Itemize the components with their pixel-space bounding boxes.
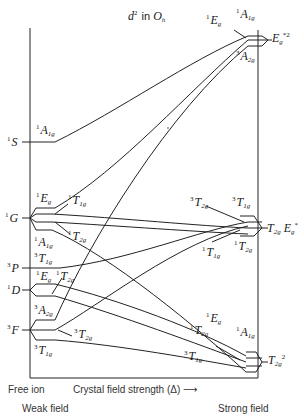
axis-caption: Crystal field strength (Δ) ⟶ [73, 384, 197, 395]
term-1D: 1D [7, 284, 20, 296]
sf-Eg2-3A2g: 3A2g [236, 50, 255, 64]
sf-T2g2-1Eg: 1Eg [206, 312, 221, 326]
sf-T2g2-1A1g: 1A1g [236, 326, 255, 340]
state-3T1g-from-3F: 3T1g [34, 344, 52, 358]
config-T2g2-label: T2g2 [268, 354, 286, 368]
state-1A1g-from-1G: 1A1g [34, 236, 53, 250]
state-3T2g-from-3F: 3T2g [74, 328, 92, 342]
state-1T2g-from-1G: 1T2g [68, 230, 86, 244]
state-1Eg-from-1D: 1Eg [36, 270, 51, 284]
sf-T2gEg-3T1g: 3T1g [232, 196, 250, 210]
state-1T1g-from-1G: 1T1g [68, 194, 86, 208]
term-3P: 3P [7, 262, 19, 274]
sf-T2gEg-1T2g: 1T2g [234, 240, 252, 254]
sf-Eg2-1A1g: 1A1g [236, 8, 255, 22]
config-T2gEg-label: T2g Eg* [267, 222, 299, 236]
config-Eg2-label: Eg*2 [272, 32, 291, 46]
sf-T2g2-1T2g: 1T2g [190, 324, 208, 338]
sf-T2gEg-3T2g: 3T2g [190, 196, 208, 210]
state-3A2g-from-3F: 3A2g [34, 304, 53, 318]
term-1G: 1G [5, 212, 18, 224]
sf-Eg2-1Eg: 1Eg [206, 14, 221, 28]
strong-field-caption: Strong field [218, 403, 269, 414]
state-1A1g-from-1S: 1A1g [36, 124, 55, 138]
term-1S: 1S [7, 136, 18, 148]
term-3F: 3F [7, 324, 19, 336]
state-3T1g-from-3P: 3T1g [34, 252, 52, 266]
sf-T2gEg-1T1g: 1T1g [202, 246, 220, 260]
weak-field-caption: Weak field [22, 403, 69, 414]
free-ion-caption: Free ion [8, 384, 45, 395]
sf-T2g2-3T1g: 3T1g [184, 350, 202, 364]
diagram-title: d2 in Oh [128, 10, 165, 24]
state-1Eg-from-1G: 1Eg [36, 192, 51, 206]
state-1T2g-from-1D: 1T2g [56, 270, 74, 284]
